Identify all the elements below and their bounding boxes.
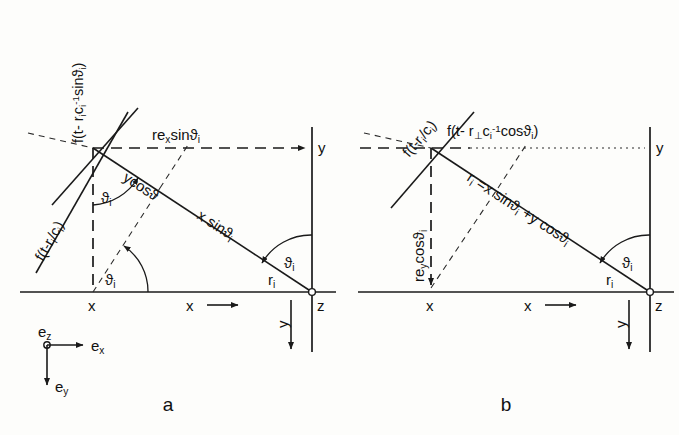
panel-b-label-axis-x: x bbox=[524, 297, 532, 314]
panel-a-angle-label-origin: ϑi bbox=[101, 189, 111, 208]
label-e-y: ey bbox=[55, 378, 69, 397]
panel-a-caption: a bbox=[163, 394, 174, 415]
panel-a-label-x-sin: x sinϑi bbox=[193, 206, 238, 244]
panel-b-label-point-z: z bbox=[655, 297, 663, 314]
panel-b-caption: b bbox=[501, 394, 512, 415]
panel-b-angle-label-z: ϑi bbox=[622, 254, 632, 273]
label-e-x: ex bbox=[91, 337, 104, 356]
panel-a-formula-retarded-ray: f(t-ri/ci) bbox=[32, 218, 69, 264]
panel-b-label-r-i: ri bbox=[606, 271, 613, 290]
panel-a-label-axis-x: x bbox=[186, 297, 194, 314]
panel-a-thin-dashed-extension bbox=[160, 145, 188, 188]
panel-b-label-re-y-cos: reycosϑi bbox=[410, 230, 429, 282]
panel-a-formula-retarded-sin: f(t- rici-1sinϑi) bbox=[70, 63, 88, 143]
panel-a-angle-arc-base bbox=[124, 246, 148, 292]
panel-b-label-y-vertical: y bbox=[612, 320, 629, 328]
panel-a: f(t-ri/ci) f(t- rici-1sinϑi) rexsinϑi y … bbox=[20, 63, 336, 415]
panel-a-label-r-i: ri bbox=[268, 271, 275, 290]
panel-b-thin-dashed-angle-leg bbox=[431, 188, 498, 288]
label-e-z: ez bbox=[38, 323, 51, 342]
panel-a-label-point-x: x bbox=[88, 297, 96, 314]
panel-b-thin-dashed-extension bbox=[498, 145, 526, 188]
panel-a-label-y-right: y bbox=[318, 139, 326, 156]
figure-container: f(t-ri/ci) f(t- rici-1sinϑi) rexsinϑi y … bbox=[0, 0, 679, 435]
panel-b-label-point-x: x bbox=[426, 297, 434, 314]
panel-a-angle-label-base: ϑi bbox=[105, 271, 115, 290]
physics-geometry-diagram: f(t-ri/ci) f(t- rici-1sinϑi) rexsinϑi y … bbox=[0, 0, 679, 435]
panel-b: f(t-ri/ci) f(t- r⊥ci-1cosϑi) y reycosϑi … bbox=[358, 112, 674, 415]
panel-a-label-point-z: z bbox=[317, 297, 325, 314]
panel-a-label-re-x-sin: rexsinϑi bbox=[152, 126, 200, 145]
panel-a-point-z-marker bbox=[309, 289, 316, 296]
panel-a-wavefront-line bbox=[52, 108, 138, 205]
basis-vector-legend: ez ex ey bbox=[38, 323, 104, 397]
panel-b-formula-retarded-ray: f(t-ri/ci) bbox=[399, 117, 441, 161]
panel-a-label-y-vertical: y bbox=[274, 320, 291, 328]
panel-b-point-z-marker bbox=[647, 289, 654, 296]
panel-b-formula-r-i-decomposition: ri =x sinϑi +y cosϑi bbox=[463, 168, 574, 249]
panel-b-formula-retarded-cos: f(t- r⊥ci-1cosϑi) bbox=[447, 123, 538, 141]
panel-a-label-y-cos: ycosϑ bbox=[120, 168, 163, 204]
panel-b-label-y-right: y bbox=[656, 139, 664, 156]
panel-a-angle-label-z: ϑi bbox=[284, 254, 294, 273]
